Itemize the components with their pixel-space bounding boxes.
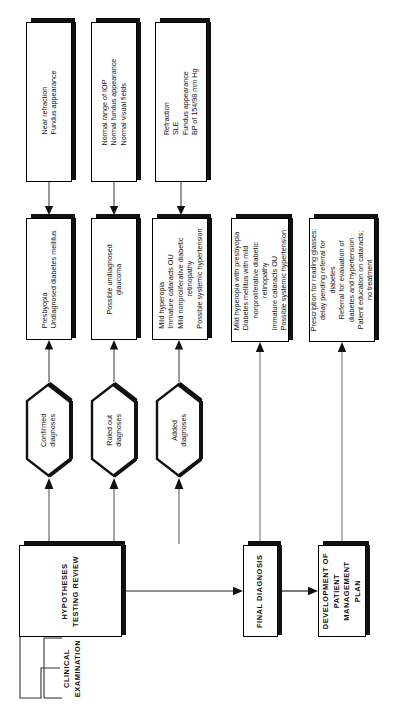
findings-box-refraction-sle-text: Refraction SLE Fundus appearance BP of 1…	[162, 69, 200, 136]
diagnosis-box-confirmed: Presbyopia Undiagnosed diabetes mellitus	[26, 218, 72, 340]
clinical-examination-bracket-line	[19, 637, 63, 699]
connector-findings-to-added	[175, 182, 187, 216]
final-diagnosis-detail-box: Mild hyperopia with presbyopia Diabetes …	[231, 218, 289, 342]
hexagon-confirmed-diagnoses: Confirmed diagnoses	[24, 382, 74, 478]
diagnosis-box-added-text: Mild hyperopia Immature cataracts OU Mil…	[156, 229, 203, 329]
connector-hypotheses-to-hex-added	[173, 478, 185, 544]
connector-final-diagnosis-to-management-plan	[281, 585, 319, 597]
final-diagnosis-box: FINAL DIAGNOSIS	[243, 545, 278, 637]
diagnosis-box-ruled-out: Possible undiagnosed glaucoma	[91, 218, 137, 340]
connector-hypotheses-to-hex-ruled-out	[108, 478, 120, 544]
flowchart-canvas: Near refraction Fundus appearance Normal…	[0, 0, 404, 714]
findings-box-iop-text: Normal range of IOP Normal fundus appear…	[100, 59, 128, 146]
hypotheses-testing-review-box: HYPOTHESES TESTING REVIEW	[19, 545, 122, 637]
findings-box-refraction-sle: Refraction SLE Fundus appearance BP of 1…	[155, 22, 207, 182]
final-diagnosis-label: FINAL DIAGNOSIS	[255, 554, 266, 627]
connector-hypotheses-to-hex-confirmed	[43, 478, 55, 544]
management-plan-detail-box: Prescription for reading glasses; delay …	[309, 218, 375, 342]
connector-hex-ruled-out-to-diagnosis	[108, 340, 120, 382]
hexagon-ruled-out-diagnoses: Ruled out diagnoses	[89, 382, 139, 478]
connector-hex-added-to-diagnosis	[173, 340, 185, 382]
hexagon-added-diagnoses: Added diagnoses	[154, 382, 204, 478]
management-plan-label: DEVELOPMENT OF PATIENT MANAGEMENT PLAN	[321, 553, 363, 629]
diagnosis-box-confirmed-text: Presbyopia Undiagnosed diabetes mellitus	[40, 230, 59, 328]
findings-box-near-refraction-text: Near refraction Fundus appearance	[40, 70, 59, 134]
findings-box-near-refraction: Near refraction Fundus appearance	[26, 22, 72, 182]
findings-box-iop: Normal range of IOP Normal fundus appear…	[91, 22, 137, 182]
connector-management-plan-to-detail	[336, 342, 348, 556]
final-diagnosis-detail-text: Mild hyperopia with presbyopia Diabetes …	[232, 230, 288, 330]
connector-hex-confirmed-to-diagnosis	[43, 340, 55, 382]
connector-findings-to-confirmed	[43, 182, 55, 216]
clinical-examination-label: CLINICAL EXAMINATION	[63, 639, 84, 696]
hypotheses-testing-review-label: HYPOTHESES TESTING REVIEW	[60, 556, 81, 627]
connector-final-diagnosis-to-detail	[254, 342, 266, 556]
diagnosis-box-added: Mild hyperopia Immature cataracts OU Mil…	[152, 218, 208, 340]
diagnosis-box-ruled-out-text: Possible undiagnosed glaucoma	[105, 244, 124, 314]
connector-hypotheses-to-final-diagnosis	[124, 585, 244, 597]
connector-findings-to-ruled-out	[108, 182, 120, 216]
management-plan-box: DEVELOPMENT OF PATIENT MANAGEMENT PLAN	[318, 545, 366, 637]
management-plan-detail-text: Prescription for reading glasses; delay …	[309, 229, 375, 332]
